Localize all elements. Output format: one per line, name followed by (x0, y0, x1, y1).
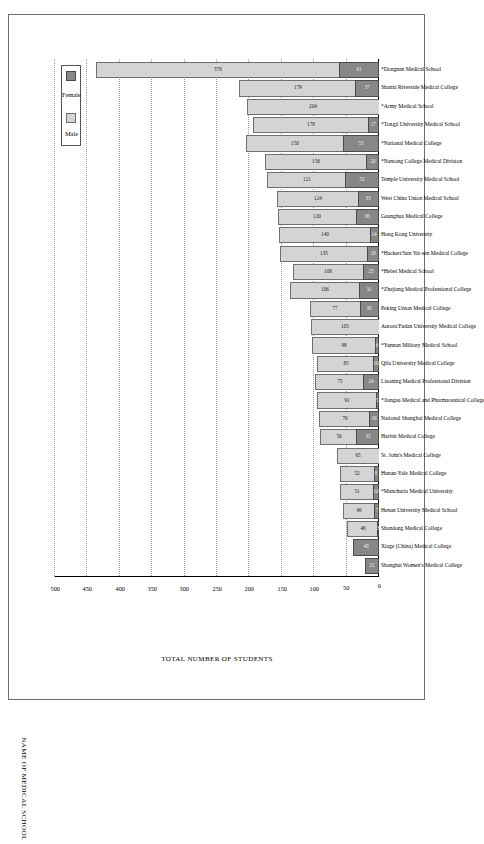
category-tick-label: West China Union Medical School (381, 196, 459, 202)
bar[interactable]: 40 (353, 539, 379, 555)
category-tick-label: Qilu University Medical College (381, 361, 454, 367)
bar[interactable]: 17817 (252, 117, 378, 133)
bar[interactable]: 37661 (95, 62, 378, 78)
bar-segment-female: 61 (339, 62, 379, 78)
bar-segment-female: 5 (375, 393, 378, 409)
bar-segment-female: 33 (357, 191, 378, 207)
bar[interactable]: 463 (347, 521, 379, 537)
category-tick-label: *Manchuria Medical University (381, 490, 453, 496)
bar-value-label-female: 30 (366, 306, 371, 311)
bar[interactable]: 528 (340, 466, 379, 482)
bar[interactable]: 8510 (317, 356, 379, 372)
bar-segment-female: 17 (367, 117, 378, 133)
bar-segment-female: 10 (372, 484, 378, 500)
bar-segment-male: 56 (320, 429, 356, 445)
bar-value-label-female: 37 (364, 86, 369, 91)
bar-value-label-male: 75 (337, 380, 342, 385)
bar-value-label-male: 156 (312, 159, 320, 164)
category-tick-label: *Nantong College Medical Division (381, 159, 462, 165)
bar[interactable]: 12036 (277, 209, 378, 225)
bar-value-label-male: 150 (291, 141, 299, 146)
category-tick-label: Shandong Medical College (381, 526, 442, 532)
bar-segment-female: 35 (356, 429, 379, 445)
bar[interactable]: 497 (342, 503, 378, 519)
bar[interactable]: 986 (311, 337, 378, 353)
bar-segment-female: 3 (377, 521, 379, 537)
legend-item[interactable]: Male (66, 113, 76, 140)
bar-value-label-female: 21 (369, 563, 374, 568)
bar-value-label-male: 121 (302, 178, 310, 183)
bar-segment-male: 46 (347, 521, 377, 537)
value-tick-label: 100 (309, 587, 318, 593)
bar-value-label-female: 6 (375, 343, 378, 348)
bar-value-label-female: 25 (368, 269, 373, 274)
bar[interactable]: 21 (365, 558, 379, 574)
bar[interactable]: 12152 (266, 172, 378, 188)
category-axis-title-text: NAME OF MEDICAL SCHOOL (20, 737, 28, 840)
bar-value-label-male: 51 (353, 490, 358, 495)
bar-segment-male: 75 (314, 374, 363, 390)
bar-value-label-male: 52 (354, 471, 359, 476)
bar-value-label-female: 3 (376, 527, 379, 532)
legend-swatch-female (66, 71, 76, 81)
bar[interactable]: 13518 (279, 246, 378, 262)
bar[interactable]: 10631 (290, 282, 379, 298)
bar[interactable]: 5635 (320, 429, 379, 445)
bar-value-label-male: 179 (293, 86, 301, 91)
bar-value-label-female: 24 (368, 380, 373, 385)
bar-value-label-male: 105 (341, 325, 349, 330)
bar[interactable]: 105 (310, 319, 378, 335)
bar[interactable]: 10825 (292, 264, 378, 280)
bar-value-label-male: 91 (344, 398, 349, 403)
bar-segment-male: 140 (279, 227, 370, 243)
value-tick-label: 250 (212, 587, 221, 593)
rotated-chart-canvas: 050100150200250300350400450500 TOTAL NUM… (21, 19, 413, 695)
bar-segment-female: 16 (368, 411, 378, 427)
bar-segment-male: 120 (277, 209, 355, 225)
bar-segment-male: 204 (246, 99, 378, 115)
bar-segment-female: 36 (355, 209, 378, 225)
bar[interactable]: 14014 (279, 227, 379, 243)
bar[interactable]: 65 (336, 448, 378, 464)
bar[interactable]: 12433 (277, 191, 379, 207)
category-tick-label: *Dongnan Medical School (381, 67, 441, 73)
bar-segment-female: 25 (362, 264, 378, 280)
category-tick-label: Xiage (China) Medical College (381, 545, 451, 551)
category-tick-label: Shanxi Riverside Medical College (381, 86, 458, 92)
bar[interactable]: 915 (316, 393, 378, 409)
category-tick-label: Harbin Medical College (381, 435, 435, 441)
category-tick-label: Liaoning Medical Professional Division (381, 379, 471, 385)
bar-segment-female: 6 (375, 337, 379, 353)
bar[interactable]: 7616 (319, 411, 379, 427)
bar-value-label-male: 76 (341, 416, 346, 421)
bar[interactable]: 204 (246, 99, 378, 115)
bar-segment-male: 376 (95, 62, 339, 78)
legend-item[interactable]: Female (66, 71, 76, 104)
value-tick-label: 50 (343, 585, 349, 591)
bar-segment-female: 24 (363, 374, 379, 390)
figure-border: 050100150200250300350400450500 TOTAL NUM… (8, 14, 425, 700)
bar[interactable]: 5110 (339, 484, 379, 500)
bar-value-label-male: 56 (336, 435, 341, 440)
bar-value-label-male: 204 (309, 104, 317, 109)
chart-area: 050100150200250300350400450500 TOTAL NUM… (21, 19, 413, 695)
value-axis-ticks: 050100150200250300350400450500 (55, 579, 379, 695)
bar[interactable]: 17937 (239, 80, 379, 96)
bar[interactable]: 15620 (264, 154, 378, 170)
bar-value-label-male: 85 (342, 361, 347, 366)
category-tick-label: Guanghua Medical College (381, 214, 443, 220)
bar-value-label-male: 135 (320, 251, 328, 256)
category-tick-label: *Hebei Medical School (381, 269, 434, 275)
bar[interactable]: 15055 (246, 135, 379, 151)
bar-segment-male: 106 (290, 282, 359, 298)
bar[interactable]: 7524 (314, 374, 378, 390)
value-tick-label: 200 (244, 587, 253, 593)
value-tick-label: 150 (277, 587, 286, 593)
bar-value-label-female: 52 (359, 178, 364, 183)
bar[interactable]: 7730 (309, 301, 378, 317)
bar-segment-female: 8 (373, 466, 378, 482)
bar-segment-male: 49 (342, 503, 374, 519)
category-tick-label: *Tongji University Medical School (381, 122, 460, 128)
legend-label: Female (61, 91, 80, 98)
